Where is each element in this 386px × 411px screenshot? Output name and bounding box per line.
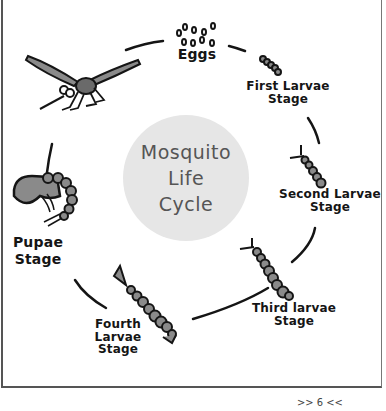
page-number: >> 6 << [297,396,343,409]
title-line: Life [168,165,204,191]
label-line: Stage [88,343,148,356]
eggs-icon [177,23,215,46]
title-line: Mosquito [141,139,231,165]
label-line: Fourth [88,318,148,331]
label-line: Stage [238,93,338,106]
label-pupae: Pupae Stage [10,234,66,268]
label-fourth-larvae: Fourth Larvae Stage [88,318,148,356]
adult-mosquito-icon [26,56,140,110]
label-line: Third larvae [248,302,340,315]
label-line: Stage [248,315,340,328]
second-larvae-icon [290,145,326,188]
title-line: Cycle [159,191,213,217]
label-line: Stage [278,201,382,214]
label-second-larvae: Second Larvae Stage [278,188,382,213]
label-line: Pupae [10,234,66,251]
label-eggs: Eggs [172,47,222,62]
label-first-larvae: First Larvae Stage [238,80,338,105]
label-line: Stage [10,251,66,268]
center-title: Mosquito Life Cycle [123,115,249,241]
first-larvae-icon [260,56,281,75]
label-line: Eggs [172,47,222,62]
pupae-icon [14,173,77,226]
label-line: First Larvae [238,80,338,93]
third-larvae-icon [240,238,293,300]
label-third-larvae: Third larvae Stage [248,302,340,327]
label-line: Second Larvae [278,188,382,201]
